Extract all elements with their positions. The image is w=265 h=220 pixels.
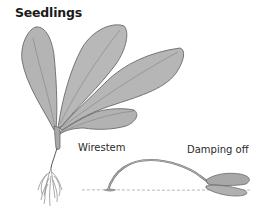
leaf — [206, 185, 247, 196]
leaf — [22, 27, 57, 130]
stem — [54, 126, 60, 150]
wirestem-seedling — [22, 25, 184, 206]
leaf — [206, 173, 249, 185]
label-damping-off: Damping off — [187, 144, 249, 155]
roots — [38, 168, 62, 206]
damping-off-seedling — [82, 160, 250, 196]
seedlings-illustration — [0, 0, 265, 220]
label-wirestem: Wirestem — [78, 142, 126, 153]
collapsed-stem — [108, 160, 210, 190]
